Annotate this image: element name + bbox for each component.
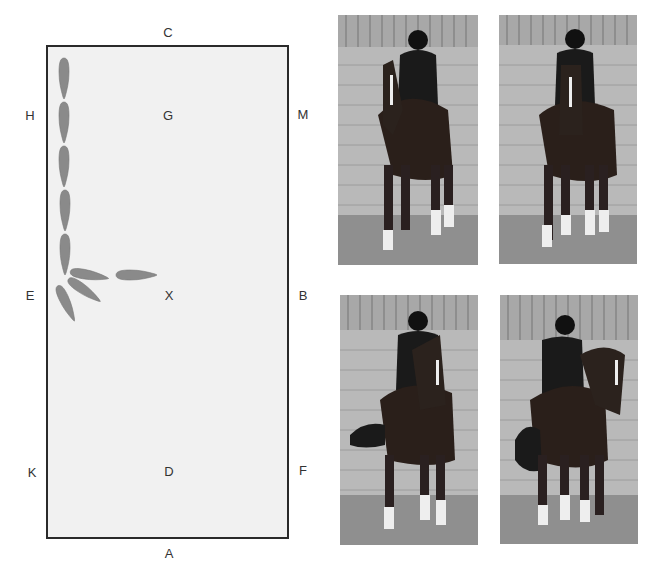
horse-shape-icon: [116, 270, 157, 280]
horse-shape-icon: [59, 146, 69, 187]
photo-4: [500, 295, 638, 544]
photo-3: [340, 295, 478, 545]
horse-shape-icon: [59, 58, 69, 99]
horse-shape-icon: [60, 234, 70, 275]
horse-shape-icon: [60, 190, 70, 231]
horse-shape-icon: [59, 102, 69, 143]
photo-1: [338, 15, 478, 265]
horse-path-shapes: [0, 0, 330, 573]
photo-2: [499, 15, 637, 264]
